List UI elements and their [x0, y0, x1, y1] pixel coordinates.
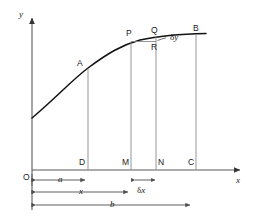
- x-axis-label: x: [236, 176, 240, 185]
- foot-label-c: C: [188, 158, 194, 167]
- foot-label-d: D: [79, 158, 85, 167]
- foot-label-n: N: [158, 158, 164, 167]
- point-label-b: B: [193, 24, 199, 33]
- dimension-label-delta-x: δx: [137, 186, 145, 195]
- point-label-p: P: [126, 29, 132, 38]
- figure-diagram: y x O A P Q B R D M N C a x b δx δy: [0, 0, 255, 223]
- dimension-label-b: b: [110, 200, 115, 209]
- point-label-q: Q: [151, 26, 158, 35]
- dimension-label-a: a: [58, 175, 63, 184]
- point-label-r: R: [151, 43, 157, 52]
- dimension-label-x: x: [79, 187, 83, 196]
- delta-x-variable: x: [141, 185, 145, 195]
- curve: [32, 34, 206, 119]
- y-axis-label: y: [19, 10, 23, 19]
- point-label-a: A: [77, 59, 83, 68]
- dimension-label-delta-y: δy: [170, 33, 178, 42]
- origin-label: O: [23, 173, 30, 182]
- delta-y-leader: [158, 38, 167, 41]
- delta-y-variable: y: [174, 32, 178, 42]
- foot-label-m: M: [122, 158, 129, 167]
